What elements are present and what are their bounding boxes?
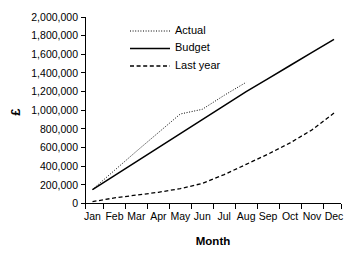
legend-label-budget: Budget	[175, 41, 210, 53]
y-tick-label: 1,800,000	[31, 29, 78, 41]
y-tick-label: 1,400,000	[31, 67, 78, 79]
chart-legend: ActualBudgetLast year	[130, 24, 221, 71]
x-axis-tick-labels: JanFebMarAprMayJunJulAugSepOctNovDec	[84, 210, 343, 222]
x-tick-label: May	[170, 210, 191, 222]
chart-canvas: 0200,000400,000600,000800,0001,000,0001,…	[0, 0, 353, 258]
series-line-last-year	[93, 113, 335, 202]
line-chart: 0200,000400,000600,000800,0001,000,0001,…	[0, 0, 353, 258]
x-tick-label: Sep	[259, 210, 278, 222]
legend-label-last-year: Last year	[175, 59, 221, 71]
y-axis-tick-labels: 0200,000400,000600,000800,0001,000,0001,…	[31, 11, 78, 210]
y-tick-label: 1,600,000	[31, 48, 78, 60]
y-tick-label: 0	[72, 197, 78, 209]
x-tick-label: Nov	[303, 210, 322, 222]
series-line-actual	[93, 82, 247, 189]
x-axis-ticks	[86, 204, 342, 209]
x-tick-label: Jul	[218, 210, 231, 222]
x-tick-label: Aug	[237, 210, 256, 222]
x-tick-label: Feb	[105, 210, 123, 222]
x-tick-label: Jun	[194, 210, 211, 222]
x-tick-label: Oct	[282, 210, 298, 222]
legend-label-actual: Actual	[175, 24, 206, 36]
y-tick-label: 1,200,000	[31, 85, 78, 97]
y-tick-label: 200,000	[40, 179, 78, 191]
x-tick-label: Jan	[84, 210, 101, 222]
x-axis-title: Month	[196, 235, 230, 247]
x-tick-label: Dec	[325, 210, 344, 222]
x-tick-label: Apr	[150, 210, 167, 222]
y-tick-label: 1,000,000	[31, 104, 78, 116]
x-tick-label: Mar	[127, 210, 146, 222]
y-tick-label: 400,000	[40, 160, 78, 172]
y-tick-label: 2,000,000	[31, 11, 78, 23]
y-axis-title: £	[8, 108, 23, 116]
y-tick-label: 800,000	[40, 123, 78, 135]
y-axis-ticks	[81, 17, 86, 204]
y-tick-label: 600,000	[40, 141, 78, 153]
